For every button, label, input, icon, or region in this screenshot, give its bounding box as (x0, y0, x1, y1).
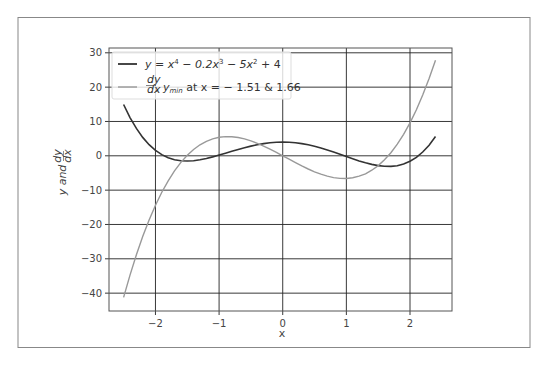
y-tick-label: 30 (89, 47, 102, 58)
x-tick-label: 1 (343, 318, 349, 329)
y-tick-label: −10 (81, 185, 102, 196)
y-axis-label-den: dx (61, 149, 74, 163)
y-tick-label: −40 (81, 288, 102, 299)
y-tick-label: 10 (89, 116, 102, 127)
x-tick-label: −2 (148, 318, 163, 329)
legend-label-y: y = x4 − 0.2x3 − 5x2 + 4 (144, 58, 281, 71)
x-tick-label: −1 (212, 318, 227, 329)
figure: −2−10123020100−10−20−30−40 y = x4 − 0.2x… (0, 0, 547, 367)
legend: y = x4 − 0.2x3 − 5x2 + 4 dy dx , ymin at… (112, 52, 301, 99)
y-axis-label-text: y and (56, 164, 69, 197)
y-tick-label: −20 (81, 219, 102, 230)
x-tick-label: 2 (407, 318, 413, 329)
y-tick-label: 20 (89, 82, 102, 93)
y-tick-label: 0 (96, 150, 102, 161)
y-tick-label: −30 (81, 253, 102, 264)
x-axis-label: x (279, 327, 286, 340)
